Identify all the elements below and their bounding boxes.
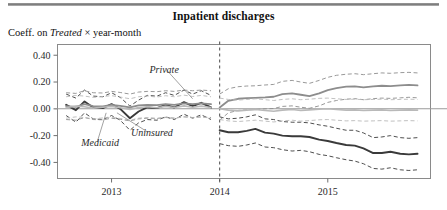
figure-panel: Inpatient discharges Coeff. on Treated ×… xyxy=(0,0,447,210)
y-tick-label: -0.40 xyxy=(30,157,51,168)
y-tick-label: 0.00 xyxy=(33,103,51,114)
y-tick-label: 0.20 xyxy=(33,76,51,87)
y-tick-label: -0.20 xyxy=(30,130,51,141)
line-chart: 0.400.200.00-0.20-0.40201320142015Privat… xyxy=(0,0,447,210)
x-tick-label: 2015 xyxy=(318,186,338,197)
series-label-private: Private xyxy=(148,64,179,75)
chart-plot-area: 0.400.200.00-0.20-0.40201320142015Privat… xyxy=(0,0,447,210)
x-tick-label: 2014 xyxy=(210,186,230,197)
plot-frame xyxy=(58,45,431,179)
x-tick-label: 2013 xyxy=(102,186,122,197)
series-label-uninsured: Uninsured xyxy=(131,127,174,138)
y-tick-label: 0.40 xyxy=(33,50,51,61)
series-label-medicaid: Medicaid xyxy=(80,137,120,148)
